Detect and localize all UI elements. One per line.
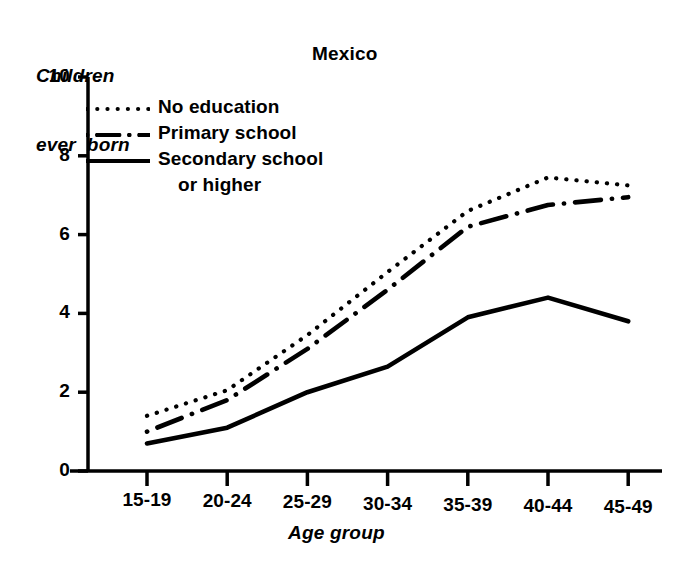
x-tick-label: 15-19: [108, 489, 186, 511]
series-line-dash-dot: [147, 197, 628, 431]
x-tick-label: 35-39: [429, 494, 507, 516]
x-axis-ticks: [147, 471, 628, 486]
x-tick-label: 40-44: [509, 495, 587, 517]
chart-figure: Children ever born Mexico Age group No e…: [0, 0, 686, 575]
x-tick-label: 25-29: [268, 491, 346, 513]
y-tick-label: 8: [36, 144, 70, 166]
series-line-solid: [147, 298, 628, 444]
plot-area: [0, 0, 686, 575]
y-tick-label: 6: [36, 223, 70, 245]
y-tick-label: 4: [36, 301, 70, 323]
series-line-dotted: [147, 177, 628, 415]
y-tick-label: 2: [36, 380, 70, 402]
x-tick-label: 30-34: [349, 493, 427, 515]
data-series-group: [147, 177, 628, 443]
x-tick-label: 20-24: [188, 490, 266, 512]
y-tick-label: 0: [36, 459, 70, 481]
x-tick-label: 45-49: [589, 496, 667, 518]
y-tick-label: 10: [36, 65, 70, 87]
